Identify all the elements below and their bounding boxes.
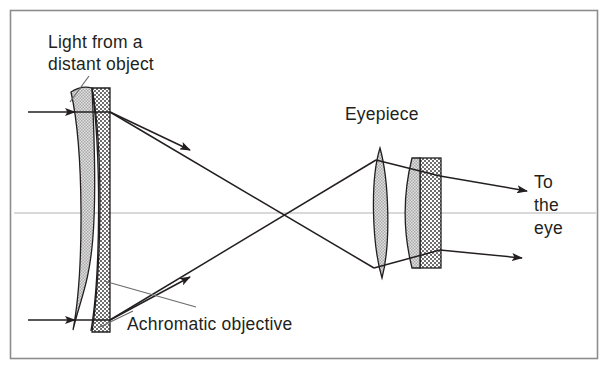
eyepiece-crown-element: [405, 158, 420, 268]
eyepiece-field-lens: [373, 148, 387, 278]
eyepiece-field-lens-body: [373, 148, 387, 278]
upper-converging-ray-b: [110, 112, 374, 268]
upper-exit-ray: [440, 176, 527, 191]
label-eyepiece: Eyepiece: [345, 103, 419, 125]
lower-exit-ray: [440, 250, 522, 258]
objective-crown-element: [71, 87, 95, 330]
objective-leader: [104, 281, 196, 307]
telescope-ray-diagram: Light from a distant object Eyepiece Ach…: [0, 0, 610, 375]
lower-converging-ray-b: [110, 160, 376, 320]
label-achromatic-objective: Achromatic objective: [127, 313, 292, 335]
label-light-from-distant-object: Light from a distant object: [48, 31, 154, 75]
upper-converging-ray-a: [110, 112, 190, 150]
achromatic-objective-lens: [71, 87, 110, 332]
label-to-the-eye: To the eye: [534, 171, 563, 240]
eyepiece-flint-element: [420, 158, 441, 268]
